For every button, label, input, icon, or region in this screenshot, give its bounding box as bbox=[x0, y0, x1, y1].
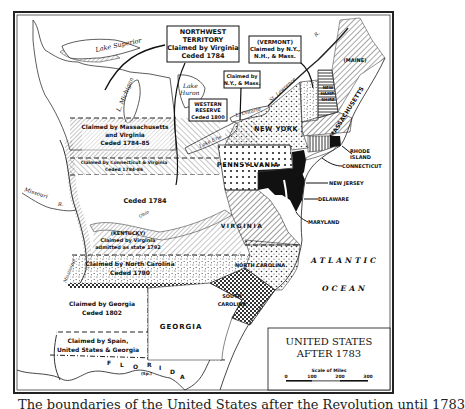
region-label: Claimed by Virginia bbox=[101, 237, 156, 244]
maryland-label: MARYLAND bbox=[308, 219, 339, 225]
florida-letter: F bbox=[107, 359, 111, 366]
map-title-line2: AFTER 1783 bbox=[296, 348, 361, 359]
connecticut-label: CONNECTICUT bbox=[342, 163, 382, 169]
mass-virginia-label: Claimed by Massachusetts and Virginia Ce… bbox=[82, 122, 170, 152]
callout-line: Claimed by bbox=[226, 73, 258, 80]
callout-line: NORTHWEST bbox=[180, 28, 227, 36]
scale-label: Scale of Miles bbox=[311, 368, 346, 373]
lake-huron-label: Lake bbox=[182, 82, 198, 89]
region-label: Ceded 1784-86 bbox=[105, 167, 143, 172]
northwest-territory-callout: NORTHWEST TERRITORY Claimed by Virginia … bbox=[167, 26, 239, 62]
region-label: admitted as state 1792 bbox=[95, 244, 161, 250]
spain-claim-label: Claimed by Spain, United States & Georgi… bbox=[57, 337, 139, 354]
new-york-label: NEW YORK bbox=[254, 125, 299, 133]
region-label: Ceded 1790 bbox=[110, 269, 150, 276]
callout-line: Claimed by N.Y., bbox=[250, 46, 300, 53]
rhode-island-label: ISLAND bbox=[350, 154, 371, 160]
region-label: Ceded 1802 bbox=[82, 309, 122, 316]
florida-letter: D bbox=[170, 368, 175, 375]
new-jersey-label: NEW JERSEY bbox=[329, 180, 364, 186]
florida-letter: O bbox=[133, 363, 138, 370]
vermont-callout: (VERMONT) Claimed by N.Y., N.H., & Mass. bbox=[249, 36, 301, 63]
scale-bar bbox=[286, 380, 368, 382]
region-label: CAROLINA bbox=[218, 301, 247, 307]
florida-letter: A bbox=[180, 373, 185, 380]
region-label: (KENTUCKY) bbox=[111, 230, 146, 236]
lake-huron-label: Huron bbox=[179, 89, 200, 96]
callout-line: (VERMONT) bbox=[257, 39, 293, 45]
region-label: SOUTH bbox=[222, 293, 242, 299]
scale-tick: 300 bbox=[363, 374, 372, 379]
callout-line: Ceded 1800 bbox=[191, 114, 225, 120]
region-label: NEW bbox=[323, 85, 334, 90]
delaware-label: DELAWARE bbox=[318, 196, 349, 202]
region-label: Claimed by Massachusetts bbox=[82, 124, 169, 131]
vermont-region bbox=[300, 80, 318, 122]
region-label: Claimed by Spain, bbox=[68, 337, 129, 345]
florida-sp-label: (Sp.) bbox=[141, 371, 152, 376]
map-title-line1: UNITED STATES bbox=[286, 336, 373, 347]
georgia-label: GEORGIA bbox=[160, 323, 203, 331]
callout-line: N.Y., & Mass. bbox=[224, 80, 261, 86]
callout-line: TERRITORY bbox=[183, 36, 224, 44]
florida-letter: L bbox=[120, 361, 124, 368]
region-label: Ceded 1784-85 bbox=[100, 140, 149, 146]
figure-caption: The boundaries of the United States afte… bbox=[18, 398, 398, 409]
missouri-r-label: R. bbox=[57, 201, 64, 207]
callout-line: Claimed by Virginia bbox=[167, 44, 238, 52]
region-label: Claimed by Connecticut & Virginia bbox=[81, 160, 168, 165]
western-reserve-callout: WESTERN RESERVE Ceded 1800 bbox=[189, 99, 227, 121]
ceded-1784-label: Ceded 1784 bbox=[123, 197, 167, 205]
scale-tick: 100 bbox=[307, 374, 316, 379]
region-label: and Virginia bbox=[105, 132, 145, 139]
region-label: HAMP- bbox=[321, 91, 336, 96]
atlantic-label: ATLANTIC bbox=[310, 256, 379, 265]
ocean-label: OCEAN bbox=[322, 284, 368, 293]
region-label: SHIRE bbox=[321, 97, 335, 102]
region-label: Claimed by Georgia bbox=[69, 300, 135, 308]
scale-tick: 200 bbox=[335, 374, 344, 379]
maine-label: (MAINE) bbox=[344, 57, 367, 63]
callout-line: RESERVE bbox=[195, 107, 221, 113]
callout-line: N.H., & Mass. bbox=[254, 53, 296, 59]
virginia-label: VIRGINIA bbox=[221, 222, 264, 229]
pennsylvania-label: PENNSYLVANIA bbox=[217, 161, 279, 169]
callout-line: Ceded 1784 bbox=[181, 52, 225, 60]
ny-mass-callout: Claimed by N.Y., & Mass. bbox=[224, 71, 261, 88]
florida-letter: R bbox=[147, 361, 152, 368]
map-title-box: UNITED STATES AFTER 1783 Scale of Miles … bbox=[268, 328, 390, 390]
north-carolina-label: NORTH CAROLINA bbox=[235, 262, 285, 268]
region-label: United States & Georgia bbox=[57, 346, 139, 354]
region-label: Claimed by North Carolina bbox=[86, 260, 175, 268]
florida-letter: I bbox=[159, 364, 161, 371]
scale-tick: 0 bbox=[284, 374, 287, 379]
